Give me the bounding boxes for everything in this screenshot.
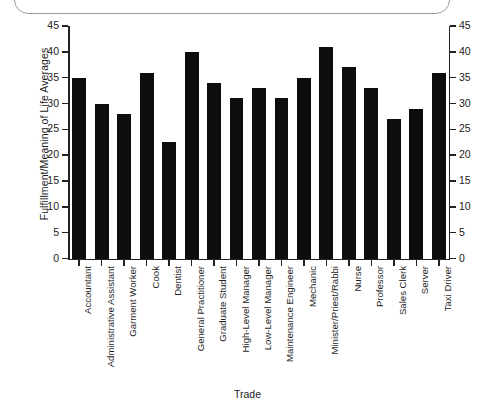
x-tick (101, 260, 103, 266)
y-tick-l-20 (62, 154, 68, 156)
y-tick-label-r-20: 20 (459, 149, 481, 159)
bar (162, 142, 176, 258)
y-tick-label-l-45: 45 (37, 20, 59, 30)
x-tick (303, 260, 305, 266)
x-tick (191, 260, 193, 266)
y-tick-r-20 (450, 154, 456, 156)
bar (409, 109, 423, 259)
x-tick-label: Administrative Assistant (106, 266, 116, 367)
y-tick-l-25 (62, 129, 68, 131)
y-tick-r-10 (450, 206, 456, 208)
x-tick-label: Mechanic (308, 266, 318, 307)
y-tick-label-r-45: 45 (459, 20, 481, 30)
x-tick-label: Taxi Driver (443, 266, 453, 311)
y-tick-label-l-5: 5 (37, 227, 59, 237)
y-tick-label-l-40: 40 (37, 46, 59, 56)
y-tick-l-0 (62, 258, 68, 260)
x-tick (123, 260, 125, 266)
y-tick-r-30 (450, 103, 456, 105)
plot-area: 005510101515202025253030353540404545 (68, 26, 450, 260)
x-tick-label: Professor (375, 266, 385, 307)
y-axis-left-line (68, 26, 70, 260)
bar (72, 78, 86, 259)
y-tick-label-r-30: 30 (459, 98, 481, 108)
y-tick-r-35 (450, 77, 456, 79)
y-tick-r-5 (450, 232, 456, 234)
x-axis-title: Trade (0, 388, 495, 400)
x-tick (416, 260, 418, 266)
y-tick-label-r-0: 0 (459, 253, 481, 263)
bar (185, 52, 199, 259)
y-tick-l-40 (62, 51, 68, 53)
x-tick (258, 260, 260, 266)
y-tick-l-35 (62, 77, 68, 79)
bar (95, 104, 109, 259)
x-tick-label: Server (420, 266, 430, 294)
x-tick (326, 260, 328, 266)
y-tick-label-l-20: 20 (37, 149, 59, 159)
bar (342, 67, 356, 258)
x-tick-label: Minister/Priest/Rabbi (330, 266, 340, 355)
y-tick-label-l-15: 15 (37, 175, 59, 185)
y-tick-l-30 (62, 103, 68, 105)
bar (117, 114, 131, 259)
bar (432, 73, 446, 259)
x-tick-label: Nurse (353, 266, 363, 292)
bar (387, 119, 401, 259)
y-tick-label-l-30: 30 (37, 98, 59, 108)
bar-chart: Fulfillment/Meaning of Life Averages 005… (0, 0, 495, 410)
y-tick-label-r-40: 40 (459, 46, 481, 56)
y-tick-label-r-15: 15 (459, 175, 481, 185)
x-tick (146, 260, 148, 266)
x-tick (236, 260, 238, 266)
y-tick-r-40 (450, 51, 456, 53)
x-tick (281, 260, 283, 266)
y-tick-label-l-10: 10 (37, 201, 59, 211)
y-tick-r-15 (450, 180, 456, 182)
x-tick-label: High-Level Manager (241, 266, 251, 352)
bar (252, 88, 266, 259)
bar (230, 98, 244, 258)
x-tick-label: Accountant (83, 266, 93, 314)
y-tick-r-25 (450, 129, 456, 131)
x-tick (393, 260, 395, 266)
x-tick (438, 260, 440, 266)
bar (140, 73, 154, 259)
x-tick (348, 260, 350, 266)
x-tick-label: General Practitioner (196, 266, 206, 351)
x-tick (168, 260, 170, 266)
y-tick-label-r-5: 5 (459, 227, 481, 237)
y-tick-l-10 (62, 206, 68, 208)
y-tick-label-r-10: 10 (459, 201, 481, 211)
y-tick-label-l-0: 0 (37, 253, 59, 263)
y-tick-l-45 (62, 25, 68, 27)
x-tick (78, 260, 80, 266)
y-tick-l-5 (62, 232, 68, 234)
x-tick-label: Garment Worker (128, 266, 138, 337)
y-tick-r-45 (450, 25, 456, 27)
y-tick-r-0 (450, 258, 456, 260)
y-tick-l-15 (62, 180, 68, 182)
bar (364, 88, 378, 259)
y-tick-label-r-25: 25 (459, 123, 481, 133)
x-tick-label: Dentist (173, 266, 183, 296)
x-tick-label: Maintenance Engineer (285, 266, 295, 362)
x-tick-label: Cook (151, 266, 161, 288)
x-tick (371, 260, 373, 266)
y-tick-label-l-25: 25 (37, 123, 59, 133)
bar (207, 83, 221, 259)
x-tick (213, 260, 215, 266)
y-axis-right-line (449, 26, 451, 260)
bar (275, 98, 289, 258)
y-tick-label-r-35: 35 (459, 72, 481, 82)
x-tick-label: Sales Clerk (398, 266, 408, 315)
x-tick-label: Low-Level Manager (263, 266, 273, 350)
bar (297, 78, 311, 259)
bar (319, 47, 333, 259)
y-tick-label-l-35: 35 (37, 72, 59, 82)
x-tick-label: Graduate Student (218, 266, 228, 342)
